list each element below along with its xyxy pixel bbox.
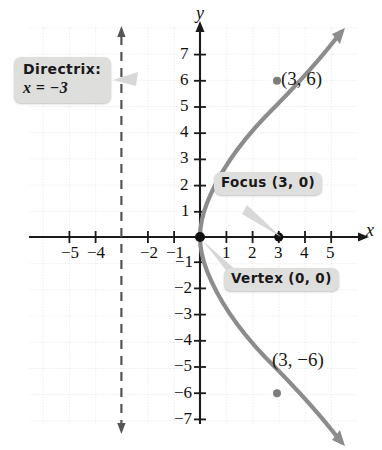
y-tick-label--2: −2 <box>174 278 192 298</box>
y-tick-label-2: 2 <box>180 175 189 195</box>
y-tick-label--4: −4 <box>174 330 192 350</box>
x-tick-label-1: 1 <box>222 243 231 263</box>
y-tick-label--1: −1 <box>175 252 193 272</box>
y-tick-label--3: −3 <box>174 304 192 324</box>
callout-vertex: Vertex (0, 0) <box>224 268 339 291</box>
x-tick-label--4: −4 <box>87 243 105 263</box>
callout-directrix-line1: Directrix: <box>23 61 101 77</box>
x-tick-label-3: 3 <box>274 243 283 263</box>
x-tick-label-4: 4 <box>300 243 309 263</box>
point-3-neg6-marker <box>273 389 281 397</box>
callout-focus: Focus (3, 0) <box>214 172 322 195</box>
y-axis-label: y <box>196 3 204 24</box>
y-tick-label--5: −5 <box>174 356 192 376</box>
y-tick-label-6: 6 <box>180 70 189 90</box>
callout-directrix-line2: x = −3 <box>23 79 101 98</box>
x-tick-label-2: 2 <box>248 243 257 263</box>
y-tick-label--7: −7 <box>174 409 192 429</box>
point-3-6-marker <box>273 77 281 85</box>
y-tick-label-4: 4 <box>180 122 189 142</box>
y-tick-label--6: −6 <box>174 383 192 403</box>
y-tick-label-1: 1 <box>181 201 190 221</box>
x-tick-label--5: −5 <box>61 243 79 263</box>
point-label-3-neg6: (3, −6) <box>272 349 324 371</box>
y-tick-label-7: 7 <box>180 44 189 64</box>
x-tick-label-5: 5 <box>326 243 335 263</box>
y-tick-label-5: 5 <box>180 96 189 116</box>
x-tick-label--2: −2 <box>140 243 158 263</box>
y-tick-label-3: 3 <box>180 148 189 168</box>
point-label-3-6: (3, 6) <box>281 68 322 90</box>
callout-directrix: Directrix: x = −3 <box>14 57 111 103</box>
vertex-point-marker <box>195 232 205 242</box>
x-axis-label: x <box>366 220 374 241</box>
graph-figure: −5 −4 −2 −1 1 2 3 4 5 7 6 5 4 3 2 1 −1 −… <box>0 0 382 450</box>
